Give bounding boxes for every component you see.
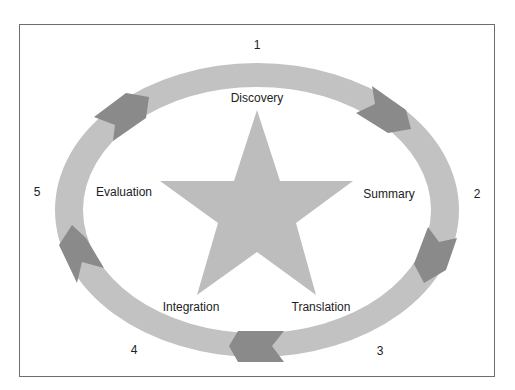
stage-number-5: 5	[34, 186, 41, 198]
stage-label-summary: Summary	[363, 188, 414, 200]
stage-label-integration: Integration	[163, 301, 220, 313]
stage-label-translation: Translation	[292, 301, 351, 313]
stage-label-evaluation: Evaluation	[96, 186, 152, 198]
stage-number-3: 3	[377, 345, 384, 357]
stage-number-4: 4	[131, 344, 138, 356]
stage-number-1: 1	[254, 39, 261, 51]
center-star-icon	[160, 110, 353, 295]
cycle-diagram	[0, 0, 515, 390]
stage-number-2: 2	[474, 188, 481, 200]
stage-label-discovery: Discovery	[231, 92, 284, 104]
